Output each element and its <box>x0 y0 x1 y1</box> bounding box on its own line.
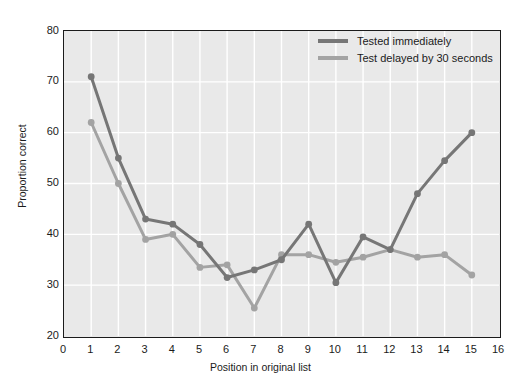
legend-swatch-tested-immediately <box>318 39 348 43</box>
x-tick-label: 12 <box>377 344 401 355</box>
serial-position-chart-figure: 20304050607080 012345678910111213141516 … <box>0 0 521 381</box>
plot-area <box>63 30 501 338</box>
x-tick-label: 16 <box>486 344 510 355</box>
y-tick-label: 70 <box>33 75 59 86</box>
y-tick-label: 40 <box>33 228 59 239</box>
x-tick-label: 5 <box>187 344 211 355</box>
y-tick-label: 80 <box>33 25 59 36</box>
data-point <box>251 267 258 274</box>
data-point <box>414 190 421 197</box>
data-point <box>332 259 339 266</box>
data-point <box>197 264 204 271</box>
data-point <box>88 73 95 80</box>
data-point <box>441 251 448 258</box>
y-axis-ticks: 20304050607080 <box>29 0 59 381</box>
x-tick-label: 15 <box>459 344 483 355</box>
data-point <box>387 246 394 253</box>
legend-swatch-test-delayed <box>318 56 348 60</box>
data-point <box>360 233 367 240</box>
data-point <box>224 261 231 268</box>
data-point <box>414 254 421 261</box>
x-tick-label: 4 <box>160 344 184 355</box>
x-tick-label: 13 <box>404 344 428 355</box>
data-point <box>441 157 448 164</box>
data-point <box>115 180 122 187</box>
y-tick-label: 60 <box>33 126 59 137</box>
data-point <box>332 279 339 286</box>
data-point <box>251 305 258 312</box>
x-tick-label: 6 <box>214 344 238 355</box>
x-axis-label: Position in original list <box>0 361 521 373</box>
x-tick-label: 0 <box>51 344 75 355</box>
y-tick-label: 50 <box>33 177 59 188</box>
x-tick-label: 2 <box>105 344 129 355</box>
data-point <box>142 216 149 223</box>
data-point <box>305 221 312 228</box>
x-tick-label: 10 <box>323 344 347 355</box>
x-tick-label: 11 <box>350 344 374 355</box>
legend-label-test-delayed: Test delayed by 30 seconds <box>357 52 493 64</box>
y-axis-label: Proportion correct <box>16 106 28 226</box>
data-point <box>360 254 367 261</box>
x-tick-label: 9 <box>296 344 320 355</box>
data-point <box>169 221 176 228</box>
x-tick-label: 8 <box>269 344 293 355</box>
data-point <box>305 251 312 258</box>
data-point <box>224 274 231 281</box>
legend-entry-test-delayed: Test delayed by 30 seconds <box>318 50 496 66</box>
data-point <box>197 241 204 248</box>
x-tick-label: 7 <box>241 344 265 355</box>
y-tick-label: 20 <box>33 330 59 341</box>
data-point <box>142 236 149 243</box>
data-point <box>278 256 285 263</box>
data-point <box>169 231 176 238</box>
x-axis-ticks: 012345678910111213141516 <box>0 344 521 360</box>
x-tick-label: 1 <box>78 344 102 355</box>
x-tick-label: 3 <box>133 344 157 355</box>
chart-legend: Tested immediately Test delayed by 30 se… <box>318 33 496 67</box>
cropped-text-remnant <box>118 0 398 5</box>
legend-label-tested-immediately: Tested immediately <box>357 35 451 47</box>
data-point <box>115 155 122 162</box>
data-point <box>88 119 95 126</box>
data-point <box>468 272 475 279</box>
y-tick-label: 30 <box>33 279 59 290</box>
legend-entry-tested-immediately: Tested immediately <box>318 33 496 49</box>
x-tick-label: 14 <box>432 344 456 355</box>
data-point <box>468 129 475 136</box>
plot-svg <box>64 31 499 336</box>
